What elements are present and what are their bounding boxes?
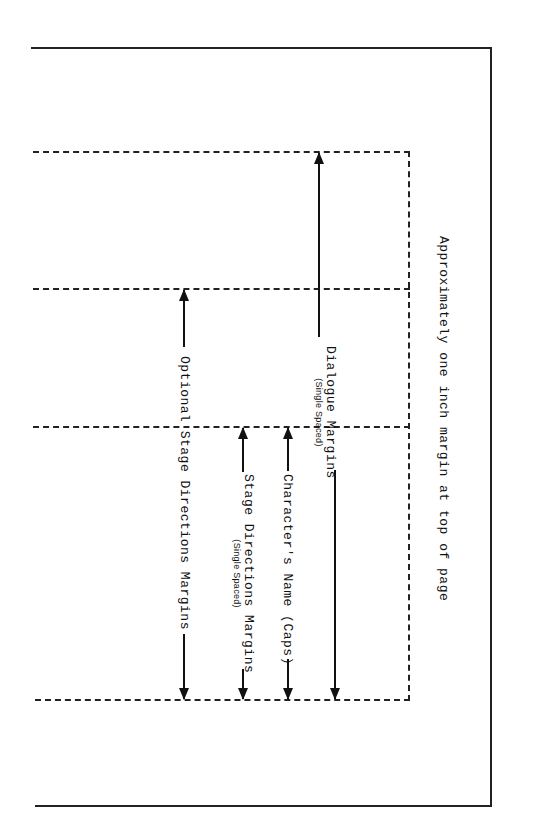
stage-directions-label-sub: (Single Spaced) bbox=[232, 539, 241, 608]
dialogue-margin-guide bbox=[33, 151, 410, 153]
optional-stage-arrow-up bbox=[183, 290, 185, 347]
dialogue-arrow-down bbox=[334, 470, 336, 699]
stage-directions-label: Stage Directions Margins (Single Spaced) bbox=[232, 474, 255, 673]
stage-directions-margin-guide bbox=[33, 426, 410, 428]
right-margin-guide bbox=[35, 699, 410, 701]
character-name-arrow-up bbox=[287, 428, 289, 471]
character-name-arrow-down bbox=[287, 659, 289, 699]
dialogue-label-main: Dialogue Margins bbox=[323, 346, 337, 479]
stage-directions-label-main: Stage Directions Margins bbox=[241, 474, 255, 673]
dialogue-label-sub: (Single Spaced) bbox=[314, 378, 323, 447]
character-name-label: Character's Name (Caps) bbox=[280, 474, 295, 665]
optional-stage-margin-guide bbox=[33, 288, 410, 290]
page-edge-right bbox=[490, 47, 492, 807]
stage-directions-arrow-down bbox=[242, 669, 244, 699]
dialogue-label: Dialogue Margins (Single Spaced) bbox=[314, 346, 337, 479]
top-margin-label: Approximately one inch margin at top of … bbox=[436, 236, 451, 601]
optional-stage-label: Optional Stage Directions Margins bbox=[177, 356, 192, 630]
top-margin-guide bbox=[408, 151, 410, 701]
optional-stage-arrow-down bbox=[183, 634, 185, 699]
page-edge-top bbox=[31, 47, 492, 49]
dialogue-arrow-up bbox=[318, 153, 320, 337]
page-edge-bottom bbox=[35, 805, 492, 807]
stage-directions-arrow-up bbox=[242, 428, 244, 472]
